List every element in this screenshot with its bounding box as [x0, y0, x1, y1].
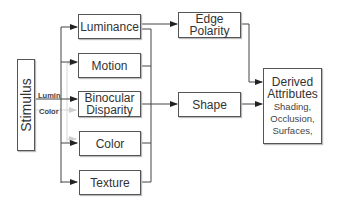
binocular-disparity-box: Binocular Disparity — [78, 91, 141, 117]
stimulus-label: Stimulus — [18, 78, 34, 132]
texture-box: Texture — [79, 170, 141, 195]
color-input-label: Color — [39, 107, 59, 116]
polarity-label: Polarity — [189, 25, 229, 37]
attributes-label: Attributes — [267, 88, 318, 100]
motion-box: Motion — [78, 53, 141, 78]
lumin-input-label: Lumin — [38, 91, 61, 100]
edge-polarity-box: Edge Polarity — [178, 12, 241, 38]
derived-attributes-box: Derived Attributes Shading, Occlusion, S… — [263, 68, 322, 144]
occlusion-item: Occlusion, — [270, 113, 314, 125]
shape-box: Shape — [178, 92, 241, 117]
disparity-label: Disparity — [86, 104, 133, 116]
stimulus-box: Stimulus — [17, 59, 35, 151]
surfaces-item: Surfaces, — [272, 125, 312, 137]
motion-label: Motion — [91, 60, 127, 72]
shading-item: Shading, — [274, 101, 312, 113]
luminance-box: Luminance — [78, 14, 141, 39]
derived-label: Derived — [272, 76, 313, 88]
luminance-label: Luminance — [80, 21, 139, 33]
color-label: Color — [96, 138, 125, 150]
shape-label: Shape — [192, 99, 227, 111]
color-box: Color — [79, 131, 141, 156]
texture-label: Texture — [90, 177, 129, 189]
